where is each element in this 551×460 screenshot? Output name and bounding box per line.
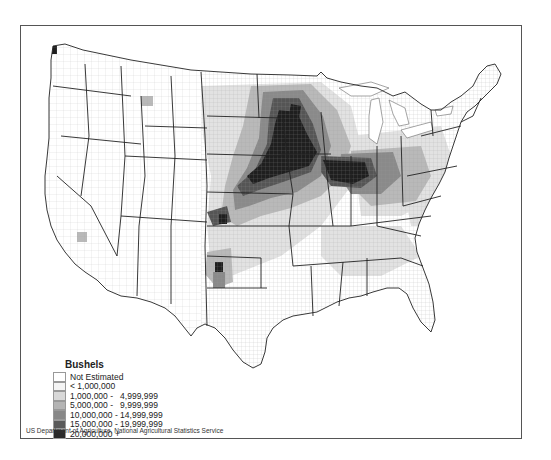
legend-swatch <box>53 382 66 392</box>
legend-item-10m-15m: 10,000,000 - 14,999,999 <box>53 410 163 420</box>
legend-item-under-1m: < 1,000,000 <box>53 382 163 392</box>
legend-item-5m-10m: 5,000,000 - 9,999,999 <box>53 401 163 411</box>
legend-title: Bushels <box>53 359 163 370</box>
legend-label: 1,000,000 - 4,999,999 <box>70 391 158 401</box>
legend-swatch <box>53 391 66 401</box>
legend-swatch <box>53 401 66 411</box>
legend-label: 10,000,000 - 14,999,999 <box>70 410 163 420</box>
legend-swatch <box>53 410 66 420</box>
map-frame: Bushels Not Estimated < 1,000,000 1,000,… <box>20 25 522 439</box>
legend-swatch <box>53 372 66 382</box>
legend-label: < 1,000,000 <box>70 381 115 391</box>
legend-label: 5,000,000 - 9,999,999 <box>70 400 158 410</box>
legend-label: Not Estimated <box>70 372 123 382</box>
source-credit: US Department of Agriculture, National A… <box>26 427 223 434</box>
legend-item-1m-5m: 1,000,000 - 4,999,999 <box>53 391 163 401</box>
legend-item-not-estimated: Not Estimated <box>53 372 163 382</box>
